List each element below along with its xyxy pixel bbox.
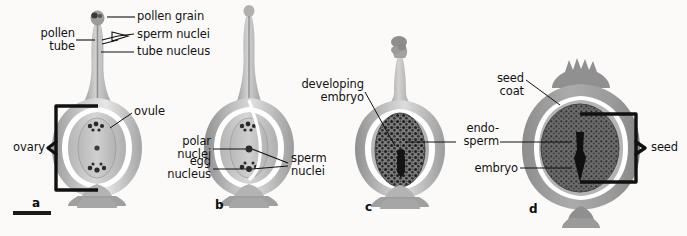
label-seed: seed [651, 141, 678, 154]
diagram-artwork [0, 0, 687, 236]
label-developing-embryo: developing embryo [292, 78, 364, 104]
plant-fertilization-diagram: pollen grain sperm nuclei tube nucleus p… [0, 0, 687, 236]
panel-b-artwork [204, 5, 294, 208]
label-embryo: embryo [455, 162, 518, 175]
label-egg-nucleus: egg nucleus [150, 155, 211, 181]
label-pollen-grain: pollen grain [137, 10, 204, 23]
label-ovary: ovary [0, 141, 45, 154]
label-sperm-nuclei-b: sperm nuclei [291, 152, 327, 178]
label-ovule: ovule [134, 105, 165, 118]
panel-letter-b: b [215, 198, 224, 212]
panel-letter-c: c [365, 200, 372, 214]
panel-letter-a: a [32, 196, 40, 210]
label-seed-coat: seed coat [472, 72, 524, 98]
label-sperm-nuclei-a: sperm nuclei [137, 28, 210, 41]
label-endosperm: endo- sperm [443, 122, 499, 148]
scale-bar-rect [13, 211, 51, 215]
label-pollen-tube: pollen tube [19, 27, 75, 53]
panel-c-artwork [355, 36, 456, 209]
label-tube-nucleus: tube nucleus [137, 45, 210, 58]
panel-letter-d: d [529, 202, 538, 216]
